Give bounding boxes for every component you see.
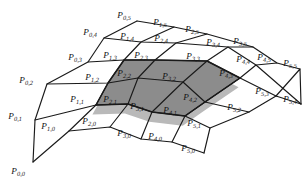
label-P11: P1,1 — [70, 95, 84, 104]
label-P30: P3,0 — [117, 129, 131, 138]
label-P30-base: P — [117, 128, 123, 138]
label-P01-base: P — [8, 111, 14, 121]
label-P04-base: P — [83, 27, 89, 37]
label-P31: P3,1 — [130, 102, 144, 111]
control-point-mesh-figure: P0,0 P0,1 P0,2 P0,3 P0,4 P0,5 P1,0 P1,1 … — [0, 0, 306, 186]
label-P24-base: P — [154, 33, 160, 43]
label-P10: P1,0 — [41, 122, 55, 131]
label-P01-sub: 0,1 — [14, 116, 22, 123]
label-P32-sub: 3,2 — [168, 76, 176, 83]
label-P35-base: P — [233, 36, 239, 46]
label-P22: P2,2 — [117, 69, 131, 78]
label-P33: P3,3 — [186, 52, 200, 61]
label-P43-base: P — [219, 68, 225, 78]
label-P52: P5,2 — [227, 103, 241, 112]
label-P51-sub: 5,1 — [193, 123, 201, 130]
label-P00: P0,0 — [11, 167, 25, 176]
label-P12-sub: 1,2 — [91, 77, 99, 84]
label-P12: P1,2 — [85, 73, 99, 82]
label-P52-sub: 5,2 — [233, 107, 241, 114]
label-P25-sub: 2,5 — [191, 29, 199, 36]
label-P51: P5,1 — [187, 119, 201, 128]
label-P30-sub: 3,0 — [123, 133, 131, 140]
label-P35: P3,5 — [233, 37, 247, 46]
label-P14-base: P — [120, 31, 126, 41]
label-P55-base: P — [283, 58, 289, 68]
label-P13: P1,3 — [103, 51, 117, 60]
label-P45: P4,5 — [257, 53, 271, 62]
label-P33-base: P — [186, 51, 192, 61]
label-P05: P0,5 — [117, 11, 131, 20]
label-P24-sub: 2,4 — [160, 38, 168, 45]
label-P55-sub: 5,5 — [289, 63, 297, 70]
label-P21-sub: 2,1 — [109, 99, 117, 106]
label-P41: P4,1 — [163, 106, 177, 115]
label-P50-sub: 5,0 — [187, 148, 195, 155]
label-P13-sub: 1,3 — [109, 55, 117, 62]
label-P45-base: P — [257, 52, 263, 62]
label-P02: P0,2 — [19, 76, 33, 85]
label-P53: P5,3 — [255, 87, 269, 96]
label-P00-sub: 0,0 — [17, 171, 25, 178]
label-P33-sub: 3,3 — [192, 56, 200, 63]
label-P40: P4,0 — [148, 132, 162, 141]
label-P54-base: P — [283, 94, 289, 104]
label-P00-base: P — [11, 166, 17, 176]
label-P53-sub: 5,3 — [261, 91, 269, 98]
label-P44-sub: 4,4 — [242, 59, 250, 66]
label-P20: P2,0 — [82, 117, 96, 126]
label-P03: P0,3 — [68, 53, 82, 62]
label-P41-sub: 4,1 — [169, 110, 177, 117]
label-P12-base: P — [85, 72, 91, 82]
label-P34-base: P — [206, 37, 212, 47]
label-P13-base: P — [103, 50, 109, 60]
label-P42-base: P — [183, 92, 189, 102]
label-P31-base: P — [130, 101, 136, 111]
label-P42: P4,2 — [183, 93, 197, 102]
label-P32-base: P — [162, 71, 168, 81]
label-P10-sub: 1,0 — [47, 126, 55, 133]
label-P44: P4,4 — [236, 55, 250, 64]
label-P43-sub: 4,3 — [225, 73, 233, 80]
label-P23: P2,3 — [134, 51, 148, 60]
label-P34: P3,4 — [206, 38, 220, 47]
label-P05-sub: 0,5 — [123, 15, 131, 22]
label-P42-sub: 4,2 — [189, 97, 197, 104]
label-P15-sub: 1,5 — [159, 22, 167, 29]
label-P25: P2,5 — [185, 25, 199, 34]
label-P15: P1,5 — [153, 18, 167, 27]
label-P02-sub: 0,2 — [25, 80, 33, 87]
label-P02-base: P — [19, 75, 25, 85]
label-P32: P3,2 — [162, 72, 176, 81]
label-P35-sub: 3,5 — [239, 41, 247, 48]
label-P14: P1,4 — [120, 32, 134, 41]
label-P53-base: P — [255, 86, 261, 96]
label-P01: P0,1 — [8, 112, 22, 121]
label-P54: P5,4 — [283, 95, 297, 104]
label-P21: P2,1 — [103, 95, 117, 104]
label-P03-sub: 0,3 — [74, 57, 82, 64]
label-P41-base: P — [163, 105, 169, 115]
label-P50-base: P — [181, 143, 187, 153]
label-P21-base: P — [103, 94, 109, 104]
label-P14-sub: 1,4 — [126, 36, 134, 43]
label-P03-base: P — [68, 52, 74, 62]
label-P55: P5,5 — [283, 59, 297, 68]
label-P23-base: P — [134, 50, 140, 60]
label-P31-sub: 3,1 — [136, 106, 144, 113]
label-P25-base: P — [185, 24, 191, 34]
label-P20-base: P — [82, 116, 88, 126]
label-P24: P2,4 — [154, 34, 168, 43]
label-P52-base: P — [227, 102, 233, 112]
label-P15-base: P — [153, 17, 159, 27]
label-P44-base: P — [236, 54, 242, 64]
label-P11-base: P — [70, 94, 76, 104]
label-P22-sub: 2,2 — [123, 73, 131, 80]
label-P23-sub: 2,3 — [140, 55, 148, 62]
label-P20-sub: 2,0 — [88, 121, 96, 128]
label-P51-base: P — [187, 118, 193, 128]
label-P04-sub: 0,4 — [89, 32, 97, 39]
label-P11-sub: 1,1 — [76, 99, 84, 106]
label-P43: P4,3 — [219, 69, 233, 78]
label-P54-sub: 5,4 — [289, 99, 297, 106]
